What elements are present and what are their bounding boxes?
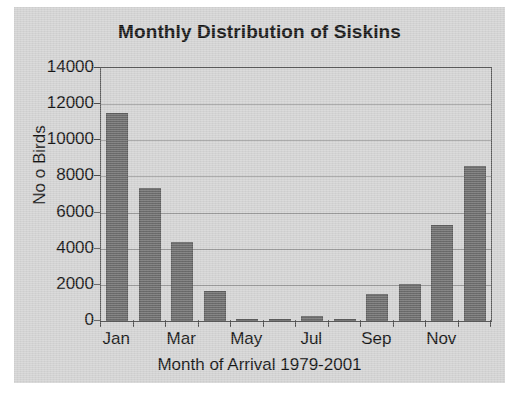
x-axis-tick-label: May [216,329,276,349]
x-axis-tick-label: Mar [151,329,211,349]
x-axis-tick-mark [360,320,361,327]
x-axis-tick-label: Jan [86,329,146,349]
x-axis-tick-marks [100,320,490,328]
x-axis-tick-mark [490,320,491,327]
x-axis-title: Month of Arrival 1979-2001 [14,355,505,375]
bar[interactable] [431,225,453,321]
x-axis-tick-mark [198,320,199,327]
x-axis-tick-labels: JanMarMayJulSepNov [100,329,490,355]
bar[interactable] [399,284,421,321]
chart-panel: Monthly Distribution of Siskins No o Bir… [14,7,505,383]
bar[interactable] [106,113,128,321]
y-axis-tick-marks [14,67,100,320]
x-axis-tick-mark [328,320,329,327]
x-axis-tick-label: Sep [346,329,406,349]
x-axis-tick-mark [165,320,166,327]
bar[interactable] [139,188,161,321]
chart-title: Monthly Distribution of Siskins [14,21,505,43]
bar[interactable] [171,242,193,322]
x-axis-tick-mark [425,320,426,327]
x-axis-tick-mark [230,320,231,327]
x-axis-tick-label: Jul [281,329,341,349]
bar-series [101,68,491,321]
x-axis-tick-mark [295,320,296,327]
x-axis-tick-mark [133,320,134,327]
plot-area [100,67,492,322]
x-axis-tick-label: Nov [411,329,471,349]
x-axis-tick-mark [393,320,394,327]
bar[interactable] [366,294,388,321]
x-axis-tick-mark [458,320,459,327]
x-axis-tick-mark [263,320,264,327]
bar[interactable] [204,291,226,321]
bar[interactable] [464,166,486,321]
x-axis-tick-mark [100,320,101,327]
